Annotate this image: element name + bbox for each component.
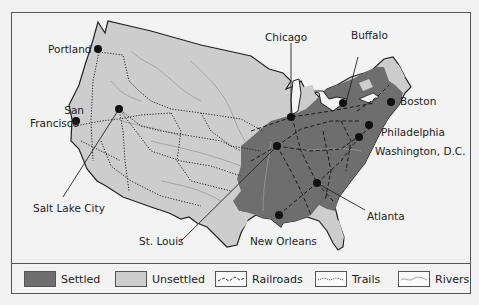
city-dot-philadelphia bbox=[365, 121, 373, 129]
legend-item-railroads: Railroads bbox=[215, 270, 303, 288]
city-label-san-francisco: San bbox=[54, 104, 84, 116]
city-dot-chicago bbox=[287, 113, 295, 121]
city-label-salt-lake-city: Salt Lake City bbox=[33, 202, 105, 214]
city-label-chicago: Chicago bbox=[265, 31, 307, 43]
legend-item-unsettled: Unsettled bbox=[115, 270, 205, 288]
city-label-philadelphia: Philadelphia bbox=[381, 126, 445, 138]
legend-label-railroads: Railroads bbox=[252, 273, 303, 286]
legend-label-unsettled: Unsettled bbox=[152, 273, 205, 286]
city-label-atlanta: Atlanta bbox=[367, 210, 405, 222]
rivers-swatch bbox=[398, 271, 430, 287]
unsettled-swatch bbox=[115, 271, 147, 287]
trails-line-icon bbox=[316, 272, 346, 286]
legend-item-settled: Settled bbox=[24, 270, 100, 288]
city-dot-buffalo bbox=[339, 99, 347, 107]
legend-label-rivers: Rivers bbox=[435, 273, 469, 286]
legend-label-settled: Settled bbox=[61, 273, 100, 286]
railroads-swatch bbox=[215, 271, 247, 287]
settled-swatch bbox=[24, 271, 56, 287]
legend-label-trails: Trails bbox=[352, 273, 380, 286]
city-dot-boston bbox=[387, 98, 395, 106]
trails-swatch bbox=[315, 271, 347, 287]
city-dot-washington bbox=[355, 133, 363, 141]
city-label-washington: Washington, D.C. bbox=[375, 145, 465, 157]
city-label-boston: Boston bbox=[400, 95, 436, 107]
city-dot-atlanta bbox=[313, 179, 321, 187]
railroads-line-icon bbox=[216, 272, 246, 286]
legend-item-trails: Trails bbox=[315, 270, 380, 288]
rivers-line-icon bbox=[399, 272, 429, 286]
city-label-portland: Portland bbox=[48, 43, 92, 55]
city-label-francisco: Francisco bbox=[30, 117, 79, 129]
city-label-st-louis: St. Louis bbox=[139, 235, 184, 247]
city-label-san: San bbox=[54, 104, 84, 116]
city-dot-new-orleans bbox=[275, 211, 283, 219]
legend: Settled Unsettled Railroads Trails River… bbox=[11, 263, 471, 294]
city-label-new-orleans: New Orleans bbox=[250, 235, 317, 247]
legend-item-rivers: Rivers bbox=[398, 270, 469, 288]
unsettled-patch-florida bbox=[329, 215, 344, 247]
city-dot-st-louis bbox=[273, 142, 281, 150]
city-dot-portland bbox=[94, 45, 102, 53]
city-label-buffalo: Buffalo bbox=[351, 29, 388, 41]
unsettled-patch-michigan bbox=[303, 85, 315, 97]
city-dot-salt-lake-city bbox=[115, 105, 123, 113]
map-frame: Portland San Francisco Salt Lake City Ch… bbox=[11, 12, 471, 294]
